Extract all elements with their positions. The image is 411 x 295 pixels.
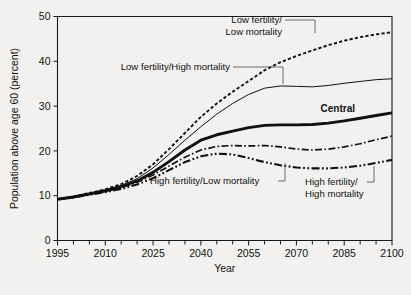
plot-frame — [58, 17, 393, 241]
annotation-high-high-line2: High mortality — [305, 188, 364, 199]
population-aging-projection-chart: 0102030405019952010202520402055207020852… — [0, 0, 411, 295]
y-tick-label: 40 — [39, 55, 51, 67]
x-tick-label: 2070 — [285, 247, 309, 259]
annotation-low-low-line1: Low fertility/ — [231, 14, 282, 25]
x-tick-label: 1995 — [46, 247, 70, 259]
annotation-high-low: High fertility/Low mortality — [150, 175, 259, 186]
annotation-central: Central — [321, 103, 356, 114]
y-axis-title: Population above age 60 (percent) — [8, 48, 20, 209]
chart-container: 0102030405019952010202520402055207020852… — [0, 0, 411, 295]
x-tick-label: 2040 — [189, 247, 213, 259]
x-tick-label: 2055 — [237, 247, 261, 259]
y-tick-label: 30 — [39, 100, 51, 112]
leader-low-low — [285, 20, 315, 33]
annotation-low-high: Low fertility/High mortality — [121, 61, 230, 72]
x-tick-label: 2010 — [94, 247, 118, 259]
x-tick-label: 2085 — [333, 247, 357, 259]
annotation-high-high-line1: High fertility/ — [305, 176, 358, 187]
x-tick-label: 2025 — [141, 247, 165, 259]
y-tick-label: 0 — [45, 234, 51, 246]
x-tick-label: 2100 — [380, 247, 404, 259]
y-tick-label: 20 — [39, 145, 51, 157]
x-axis-title: Year — [214, 262, 236, 274]
leader-high-high — [367, 166, 374, 182]
leader-low-high — [233, 67, 283, 84]
y-tick-label: 50 — [39, 10, 51, 22]
y-tick-label: 10 — [39, 189, 51, 201]
annotation-low-low-line2: Low mortality — [225, 26, 282, 37]
